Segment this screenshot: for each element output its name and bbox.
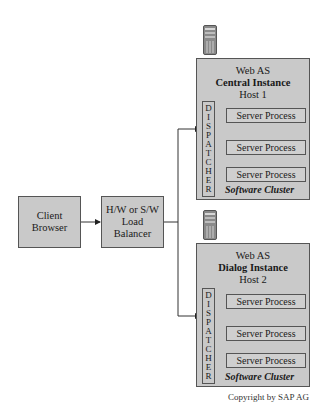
host-2-host: Host 2 (197, 274, 309, 286)
host-1-box: Web AS Central Instance Host 1 D I S P A… (196, 58, 310, 200)
client-label-line2: Browser (32, 222, 68, 234)
client-label-line1: Client (37, 210, 63, 222)
host-1-instance: Central Instance (197, 77, 309, 89)
server-process-box: Server Process (226, 294, 306, 309)
dispatcher-2: D I S P A T C H E R (202, 288, 215, 384)
server-tower-icon (203, 210, 217, 240)
dispatcher-1: D I S P A T C H E R (202, 101, 215, 197)
host-2-box: Web AS Dialog Instance Host 2 D I S P A … (196, 243, 310, 387)
host-1-title: Web AS Central Instance Host 1 (197, 65, 309, 101)
server-process-box: Server Process (226, 326, 306, 341)
host-2-instance: Dialog Instance (197, 262, 309, 274)
server-process-box: Server Process (226, 108, 306, 123)
server-tower-icon (203, 25, 217, 55)
dispatcher-letter: R (205, 185, 211, 194)
server-process-box: Server Process (226, 167, 306, 182)
server-process-box: Server Process (226, 353, 306, 368)
balancer-label-line3: Balancer (114, 228, 151, 240)
dispatcher-letter: R (205, 372, 211, 381)
balancer-label-line2: Load (122, 216, 144, 228)
host-2-title: Web AS Dialog Instance Host 2 (197, 250, 309, 286)
host-1-product: Web AS (197, 65, 309, 77)
software-cluster-label: Software Cluster (225, 184, 294, 195)
load-balancer-box: H/W or S/W Load Balancer (101, 196, 164, 248)
host-2-product: Web AS (197, 250, 309, 262)
copyright-note: Copyright by SAP AG (228, 392, 309, 402)
software-cluster-label: Software Cluster (225, 371, 294, 382)
server-process-box: Server Process (226, 140, 306, 155)
client-browser-box: Client Browser (18, 196, 81, 248)
host-1-host: Host 1 (197, 89, 309, 101)
balancer-label-line1: H/W or S/W (106, 204, 159, 216)
